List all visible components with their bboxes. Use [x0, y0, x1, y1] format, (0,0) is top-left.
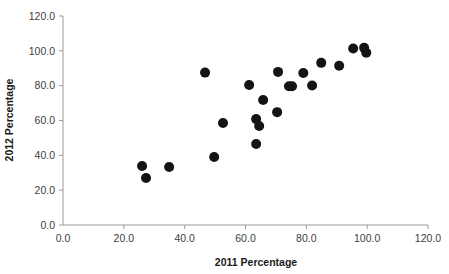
y-tick-label: 60.0: [35, 114, 56, 126]
x-tick-label: 20.0: [114, 232, 135, 244]
x-axis-title: 2011 Percentage: [215, 256, 297, 268]
scatter-chart: 0.020.040.060.080.0100.0120.0 0.020.040.…: [0, 0, 449, 274]
x-tick-label: 0.0: [56, 232, 71, 244]
data-point: [137, 161, 147, 171]
data-point: [348, 44, 358, 54]
data-points-group: [137, 43, 371, 183]
data-point: [254, 121, 264, 131]
data-point: [244, 80, 254, 90]
data-point: [200, 68, 210, 78]
data-point: [334, 61, 344, 71]
data-point: [258, 95, 268, 105]
data-point: [287, 81, 297, 91]
tick-marks-group: [59, 16, 428, 229]
data-point: [218, 118, 228, 128]
data-point: [141, 173, 151, 183]
y-tick-label: 40.0: [35, 149, 56, 161]
y-tick-label: 120.0: [29, 10, 55, 22]
x-axis-tick-labels: 0.020.040.060.080.0100.0120.0: [56, 232, 442, 244]
y-tick-label: 100.0: [29, 45, 55, 57]
data-point: [164, 162, 174, 172]
data-point: [361, 48, 371, 58]
x-tick-label: 60.0: [235, 232, 256, 244]
y-tick-label: 80.0: [35, 79, 56, 91]
data-point: [251, 139, 261, 149]
x-tick-label: 40.0: [174, 232, 195, 244]
axis-lines: [63, 16, 428, 225]
data-point: [298, 68, 308, 78]
data-point: [273, 67, 283, 77]
x-tick-label: 80.0: [296, 232, 317, 244]
data-point: [209, 152, 219, 162]
data-point: [272, 107, 282, 117]
chart-svg: 0.020.040.060.080.0100.0120.0 0.020.040.…: [0, 0, 449, 274]
data-point: [307, 80, 317, 90]
y-tick-label: 0.0: [40, 219, 55, 231]
y-axis-title: 2012 Percentage: [3, 78, 15, 161]
data-point: [316, 58, 326, 68]
y-axis-tick-labels: 0.020.040.060.080.0100.0120.0: [29, 10, 55, 231]
x-tick-label: 100.0: [354, 232, 380, 244]
x-tick-label: 120.0: [415, 232, 441, 244]
y-tick-label: 20.0: [35, 184, 56, 196]
